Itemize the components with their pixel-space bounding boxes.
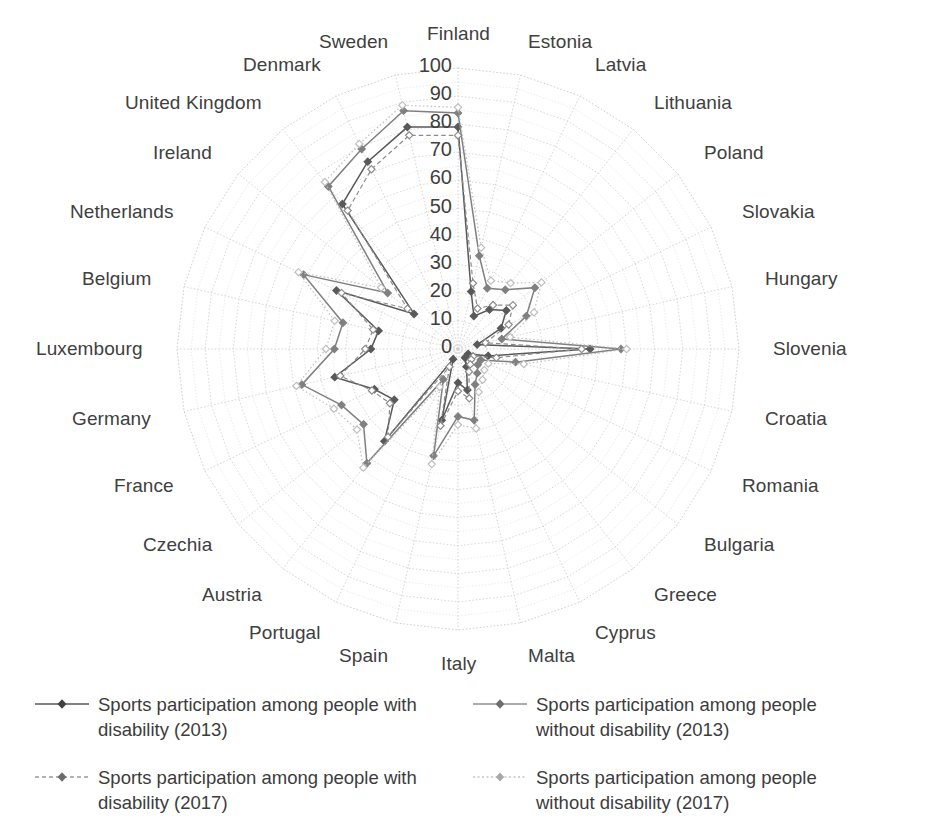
radial-tick-label: 60: [398, 166, 452, 189]
legend-item-without-disability-2013[interactable]: Sports participation among people withou…: [472, 692, 866, 742]
category-label-latvia: Latvia: [595, 54, 646, 76]
radar-data-point: [322, 345, 329, 352]
radial-tick-label: 0: [398, 335, 452, 358]
radar-data-point: [485, 352, 492, 359]
legend-label: Sports participation among people with d…: [98, 692, 428, 742]
radar-data-point: [484, 285, 491, 292]
category-label-cyprus: Cyprus: [595, 622, 656, 644]
radar-data-point: [475, 388, 482, 395]
legend-item-without-disability-2017[interactable]: Sports participation among people withou…: [472, 765, 866, 815]
radar-chart: FinlandEstoniaLatviaLithuaniaPolandSlova…: [0, 0, 926, 680]
radar-data-point: [454, 104, 461, 111]
radial-tick-label: 80: [398, 110, 452, 133]
category-label-bulgaria: Bulgaria: [704, 534, 775, 556]
radar-data-point: [503, 307, 510, 314]
category-label-netherlands: Netherlands: [70, 201, 174, 223]
category-label-belgium: Belgium: [82, 268, 151, 290]
radial-tick-label: 20: [398, 279, 452, 302]
radar-data-point: [384, 289, 391, 296]
category-label-germany: Germany: [72, 408, 151, 430]
legend-swatch-icon: [472, 767, 528, 787]
radial-tick-label: 10: [398, 307, 452, 330]
category-label-portugal: Portugal: [249, 622, 321, 644]
category-label-malta: Malta: [528, 645, 575, 667]
category-label-slovenia: Slovenia: [773, 338, 847, 360]
radar-data-point: [623, 345, 630, 352]
radar-data-point: [470, 312, 477, 319]
category-label-croatia: Croatia: [765, 408, 827, 430]
radar-data-point: [471, 381, 478, 388]
radar-data-point: [466, 395, 473, 402]
radar-data-point: [474, 370, 481, 377]
radar-data-point: [473, 425, 480, 432]
category-label-greece: Greece: [654, 584, 717, 606]
radar-data-point: [474, 305, 481, 312]
category-label-czechia: Czechia: [143, 534, 212, 556]
category-label-spain: Spain: [339, 645, 388, 667]
legend-swatch-icon: [472, 694, 528, 714]
category-label-austria: Austria: [202, 584, 262, 606]
legend-label: Sports participation among people withou…: [536, 692, 866, 742]
radar-series-line: [296, 105, 626, 467]
category-label-france: France: [114, 475, 174, 497]
category-label-romania: Romania: [742, 475, 819, 497]
radial-tick-label: 30: [398, 251, 452, 274]
radial-tick-label: 90: [398, 82, 452, 105]
radial-tick-label: 40: [398, 223, 452, 246]
radar-data-point: [428, 460, 435, 467]
radar-data-point: [538, 279, 545, 286]
chart-legend: Sports participation among people with d…: [0, 686, 926, 836]
category-label-united-kingdom: United Kingdom: [125, 92, 262, 114]
category-label-slovakia: Slovakia: [742, 201, 815, 223]
radar-data-point: [476, 252, 483, 259]
radar-data-point: [353, 426, 360, 433]
legend-item-with-disability-2017[interactable]: Sports participation among people with d…: [34, 765, 428, 815]
radar-data-point: [481, 366, 488, 373]
category-label-lithuania: Lithuania: [654, 92, 732, 114]
category-label-poland: Poland: [704, 142, 764, 164]
radial-tick-label: 100: [398, 54, 452, 77]
legend-item-with-disability-2013[interactable]: Sports participation among people with d…: [34, 692, 428, 742]
category-label-sweden: Sweden: [319, 31, 388, 53]
category-label-estonia: Estonia: [528, 31, 592, 53]
radial-tick-label: 70: [398, 138, 452, 161]
radar-data-point: [487, 277, 494, 284]
radar-gridlines: [177, 68, 739, 630]
legend-swatch-icon: [34, 767, 90, 787]
category-label-ireland: Ireland: [153, 142, 212, 164]
category-label-italy: Italy: [441, 653, 476, 675]
radar-data-point: [430, 452, 437, 459]
radial-tick-label: 50: [398, 195, 452, 218]
legend-swatch-icon: [34, 694, 90, 714]
category-label-luxembourg: Luxembourg: [36, 338, 143, 360]
radar-data-point: [502, 286, 509, 293]
category-label-hungary: Hungary: [765, 268, 838, 290]
category-label-denmark: Denmark: [243, 54, 321, 76]
radar-data-point: [454, 421, 461, 428]
category-label-finland: Finland: [427, 23, 490, 45]
legend-label: Sports participation among people withou…: [536, 765, 866, 815]
legend-label: Sports participation among people with d…: [98, 765, 428, 815]
radar-data-point: [331, 317, 338, 324]
